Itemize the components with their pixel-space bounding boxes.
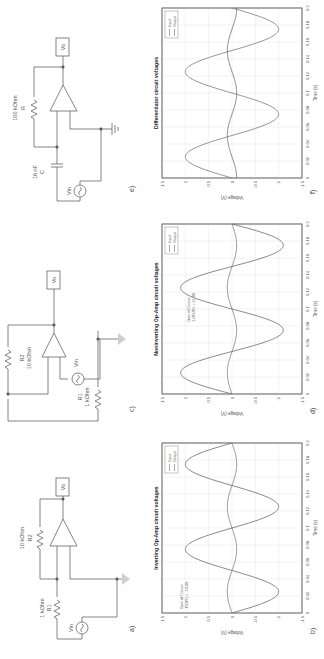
panel-label-c: c) — [128, 406, 135, 412]
resistor-r1-icon — [95, 390, 101, 409]
svg-text:0: 0 — [305, 392, 310, 395]
svg-text:0.06: 0.06 — [305, 338, 310, 347]
r1-value: 1 kOhm — [39, 598, 45, 618]
opamp-icon — [50, 519, 77, 546]
svg-text:0.16: 0.16 — [305, 472, 310, 481]
svg-text:0: 0 — [230, 396, 235, 399]
svg-text:0.1: 0.1 — [305, 524, 310, 530]
svg-text:Voltage (V): Voltage (V) — [220, 630, 243, 635]
probe-label: Vo — [60, 484, 66, 490]
chart-noninverting: 00.020.040.060.080.10.120.140.160.180.21… — [140, 220, 324, 440]
r2-name: R2 — [27, 534, 33, 541]
svg-text:0.08: 0.08 — [305, 321, 310, 330]
circuit-differentiator: Vo Vin 16 nF C 100 kOhm R — [0, 0, 130, 219]
svg-text:1+R2/R1 = 11.00: 1+R2/R1 = 11.00 — [192, 293, 196, 322]
svg-text:0.18: 0.18 — [305, 20, 310, 29]
svg-text:1.5: 1.5 — [160, 180, 165, 186]
resistor-r-icon — [31, 100, 37, 119]
svg-text:1: 1 — [183, 396, 188, 399]
svg-text:-1: -1 — [276, 180, 281, 184]
svg-text:Voltage (V): Voltage (V) — [220, 411, 243, 416]
r2-name: R2 — [19, 354, 25, 361]
c-value: 16 nF — [32, 164, 38, 179]
source-label: Vin — [73, 359, 79, 367]
svg-text:1: 1 — [183, 615, 188, 618]
chart-differentiator: 00.020.040.060.080.10.120.140.160.180.21… — [140, 4, 324, 224]
r-name: R — [20, 106, 26, 110]
r1-value: 1 kOhm — [84, 387, 90, 407]
svg-text:0: 0 — [305, 611, 310, 614]
svg-text:0.5: 0.5 — [206, 396, 211, 402]
svg-text:Input: Input — [168, 19, 172, 27]
svg-text:Voltage (V): Voltage (V) — [220, 195, 243, 200]
svg-text:-0.5: -0.5 — [253, 180, 258, 188]
svg-text:0.16: 0.16 — [305, 253, 310, 262]
svg-text:-1: -1 — [276, 615, 281, 619]
svg-text:Output: Output — [173, 451, 177, 462]
svg-text:-1.5: -1.5 — [300, 396, 305, 404]
svg-text:Inverting Op-Amp circuit volta: Inverting Op-Amp circuit voltages — [153, 486, 159, 569]
svg-text:0.16: 0.16 — [305, 37, 310, 46]
svg-text:0.14: 0.14 — [305, 54, 310, 63]
svg-text:1.5: 1.5 — [160, 396, 165, 402]
capacitor-icon — [51, 164, 63, 167]
svg-text:0.02: 0.02 — [305, 372, 310, 381]
svg-text:0: 0 — [230, 615, 235, 618]
svg-text:0.14: 0.14 — [305, 270, 310, 279]
panel-label-b: b) — [309, 628, 316, 634]
svg-text:0.1: 0.1 — [305, 305, 310, 311]
svg-text:1.5: 1.5 — [160, 615, 165, 621]
figure-stage: Vo Vin 1 kOhm R1 10 kOhm R2 a) — [0, 0, 324, 659]
panel-label-d: d) — [309, 408, 316, 414]
svg-text:Output: Output — [173, 16, 177, 27]
resistor-r2-icon — [5, 350, 11, 369]
svg-text:0.02: 0.02 — [305, 156, 310, 165]
svg-text:Differentiator circuit voltage: Differentiator circuit voltages — [153, 57, 159, 129]
svg-text:0.12: 0.12 — [305, 287, 310, 296]
svg-text:Gain of Circuit:: Gain of Circuit: — [187, 297, 191, 322]
circuit-noninverting: Vo Vin R1 1 kOhm R2 10 kOhm — [0, 219, 130, 439]
svg-text:Time (s): Time (s) — [313, 519, 318, 536]
svg-text:0: 0 — [230, 180, 235, 183]
r1-name: R1 — [46, 604, 52, 611]
svg-text:Gain of Circuit:: Gain of Circuit: — [180, 584, 184, 609]
opamp-icon — [42, 333, 66, 357]
svg-text:Output: Output — [173, 232, 177, 243]
svg-text:Input: Input — [168, 454, 172, 462]
r-value: 100 kOhm — [12, 95, 18, 121]
opamp-icon — [50, 85, 77, 111]
probe-label: Vo — [60, 44, 66, 50]
svg-text:0.06: 0.06 — [305, 122, 310, 131]
r1-name: R1 — [77, 393, 83, 400]
ground-icon — [122, 573, 130, 585]
svg-text:0.14: 0.14 — [305, 489, 310, 498]
svg-text:0.18: 0.18 — [305, 236, 310, 245]
chart-inverting: 00.020.040.060.080.10.120.140.160.180.21… — [140, 439, 324, 659]
svg-text:Input: Input — [168, 235, 172, 243]
resistor-r1-icon — [54, 600, 60, 619]
svg-text:-1: -1 — [276, 396, 281, 400]
source-label: Vin — [66, 187, 72, 195]
svg-text:0.08: 0.08 — [305, 105, 310, 114]
svg-text:0.08: 0.08 — [305, 540, 310, 549]
svg-text:0.02: 0.02 — [305, 591, 310, 600]
svg-text:0.04: 0.04 — [305, 355, 310, 364]
svg-text:0.5: 0.5 — [206, 615, 211, 621]
svg-text:Noninverting Op-Amp circuit vo: Noninverting Op-Amp circuit voltages — [153, 262, 159, 356]
svg-text:0.04: 0.04 — [305, 574, 310, 583]
svg-text:1: 1 — [183, 180, 188, 183]
svg-text:0.1: 0.1 — [305, 89, 310, 95]
svg-text:Time (s): Time (s) — [313, 300, 318, 317]
r2-value: 10 kOhm — [26, 346, 32, 369]
source-label: Vin — [68, 624, 74, 632]
svg-text:Time (s): Time (s) — [313, 84, 318, 101]
circuit-inverting: Vo Vin 1 kOhm R1 10 kOhm R2 — [0, 439, 130, 659]
svg-text:0.18: 0.18 — [305, 455, 310, 464]
svg-text:0.2: 0.2 — [305, 439, 310, 445]
resistor-r2-icon — [37, 530, 43, 549]
svg-text:-0.5: -0.5 — [253, 615, 258, 623]
svg-text:0.06: 0.06 — [305, 557, 310, 566]
probe-label: Vo — [51, 277, 57, 283]
svg-text:0.12: 0.12 — [305, 71, 310, 80]
svg-text:-1.5: -1.5 — [300, 615, 305, 623]
